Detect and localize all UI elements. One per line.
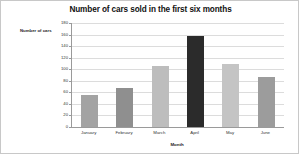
y-tick-mark — [69, 127, 72, 128]
y-tick-label: 140 — [61, 44, 68, 48]
bar-slot — [249, 23, 284, 127]
y-axis-title: Number of cars — [20, 28, 52, 33]
bar-slot — [72, 23, 107, 127]
y-tick-label: 20 — [63, 113, 68, 117]
bar-february[interactable] — [116, 88, 133, 127]
x-axis-tick-labels: JanuaryFebruaryMarchAprilMayJune — [71, 130, 283, 135]
plot-area: 180160140120100806040200 — [71, 23, 284, 128]
bar-june[interactable] — [258, 77, 275, 127]
x-tick-label: February — [106, 130, 141, 135]
y-tick-label: 60 — [63, 90, 68, 94]
x-tick-label: June — [248, 130, 283, 135]
x-tick-label: May — [212, 130, 247, 135]
bar-april[interactable] — [187, 36, 204, 127]
chart-title: Number of cars sold in the first six mon… — [1, 5, 299, 14]
x-axis-title: Month — [71, 142, 283, 147]
y-tick-label: 160 — [61, 32, 68, 36]
x-tick-label: January — [71, 130, 106, 135]
y-tick-label: 0 — [66, 125, 68, 129]
bar-january[interactable] — [81, 95, 98, 127]
bars-group — [72, 23, 284, 127]
bar-slot — [178, 23, 213, 127]
bar-may[interactable] — [222, 64, 239, 127]
x-tick-label: April — [177, 130, 212, 135]
y-tick-label: 40 — [63, 102, 68, 106]
bar-march[interactable] — [152, 66, 169, 127]
bar-slot — [143, 23, 178, 127]
y-tick-label: 100 — [61, 67, 68, 71]
bar-slot — [107, 23, 142, 127]
bar-slot — [213, 23, 248, 127]
bar-chart-figure: Number of cars sold in the first six mon… — [0, 0, 299, 154]
y-tick-label: 180 — [61, 21, 68, 25]
y-tick-label: 120 — [61, 56, 68, 60]
x-tick-label: March — [142, 130, 177, 135]
y-tick-label: 80 — [63, 79, 68, 83]
